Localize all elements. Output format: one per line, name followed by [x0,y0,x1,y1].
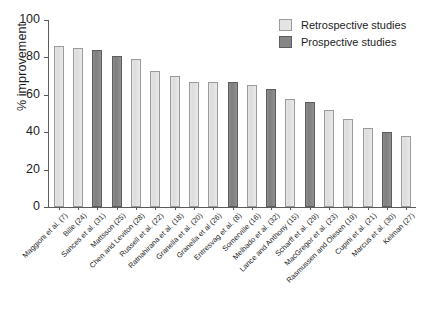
bar-chart-figure: % improvement 020406080100 Maggioni et a… [0,0,422,316]
legend: Retrospective studies Prospective studie… [279,19,406,53]
legend-label-retrospective: Retrospective studies [301,19,406,31]
legend-swatch-retrospective-icon [279,19,292,31]
legend-swatch-prospective-icon [279,36,292,48]
legend-item-prospective: Prospective studies [279,36,406,48]
legend-item-retrospective: Retrospective studies [279,19,406,31]
legend-label-prospective: Prospective studies [301,36,396,48]
